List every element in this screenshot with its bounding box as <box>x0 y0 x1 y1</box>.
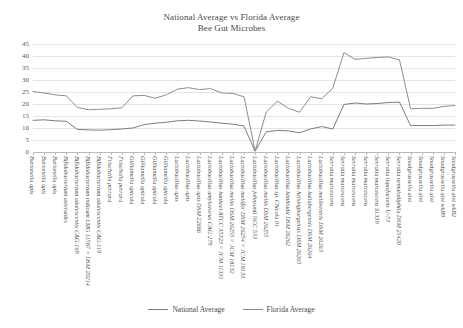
x-axis-tick <box>355 152 356 155</box>
x-axis-tick <box>277 152 278 155</box>
chart-legend: National AverageFlorida Average <box>0 305 463 314</box>
x-axis-tick <box>166 152 167 155</box>
x-axis-category-label: Snodgrassella alvi <box>429 156 435 202</box>
y-axis-tick-label: 10 <box>22 125 29 132</box>
x-axis-tick <box>399 152 400 155</box>
x-axis-category-label: Snodgrassella alvi wkB9 <box>440 156 446 217</box>
x-axis-category-label: Lactobacillus apis DSM 22686 <box>196 156 202 233</box>
x-axis-category-label: Bifidobacterium asteroides <box>63 156 69 223</box>
x-axis-tick <box>377 152 378 155</box>
x-axis-tick <box>455 152 456 155</box>
x-axis-tick <box>288 152 289 155</box>
x-axis-tick <box>177 152 178 155</box>
x-axis-tick <box>188 152 189 155</box>
x-axis-tick <box>144 152 145 155</box>
chart-title: National Average vs Florida Average <box>0 12 463 23</box>
x-axis-category-label: Bifidobacterium adolescentis CAG:119 <box>96 156 102 253</box>
x-axis-labels: Bartonella apisBartonella apisBartonella… <box>33 156 455 286</box>
x-axis-category-label: Lactobacillus kimbladii DSM 26262 <box>285 156 291 246</box>
x-axis-category-label: Gilliamella apicola <box>140 156 146 204</box>
x-axis-category-label: Gilliamella apicola <box>162 156 168 204</box>
y-axis-tick-label: 20 <box>22 101 29 108</box>
x-axis-tick <box>233 152 234 155</box>
x-axis-tick <box>55 152 56 155</box>
x-axis-tick <box>422 152 423 155</box>
x-axis-tick <box>333 152 334 155</box>
legend-item[interactable]: National Average <box>148 305 224 314</box>
chart-container: National Average vs Florida Average Bee … <box>0 0 463 328</box>
y-axis-labels: 051015202530354045 <box>0 44 31 152</box>
x-axis-tick <box>244 152 245 155</box>
x-axis-tick <box>200 152 201 155</box>
chart-title-block: National Average vs Florida Average Bee … <box>0 12 463 34</box>
x-axis-tick <box>122 152 123 155</box>
x-axis-tick <box>33 152 34 155</box>
x-axis-tick <box>89 152 90 155</box>
y-axis-tick-label: 0 <box>26 149 30 156</box>
plot-area <box>33 44 455 152</box>
x-axis-category-label: Gilliamella apicola <box>129 156 135 204</box>
x-axis-category-label: Snodgrassella alvi wkB2 <box>451 156 457 217</box>
x-axis-category-label: Lactobacillus helsingborgensis DSM 26265 <box>296 156 302 264</box>
y-axis-tick-label: 5 <box>26 137 30 144</box>
x-axis-tick <box>433 152 434 155</box>
x-axis-category-label: Serratia liquefaciens U-73 <box>385 156 391 222</box>
x-axis-category-label: Serratia marcescens S1339 <box>373 156 379 223</box>
y-axis-tick-label: 40 <box>22 53 29 60</box>
x-axis-category-label: Lactobacillus apis <box>174 156 180 202</box>
series-line <box>33 53 455 151</box>
x-axis-tick <box>100 152 101 155</box>
x-axis-category-label: Lactobacillus apis <box>185 156 191 202</box>
x-axis-tick <box>77 152 78 155</box>
x-axis-category-label: Lactobacillus amylovorus CAG:279 <box>207 156 213 245</box>
x-axis-tick <box>133 152 134 155</box>
y-axis-tick-label: 45 <box>22 41 29 48</box>
legend-label: Florida Average <box>267 305 315 314</box>
x-axis-category-label: Frischella perrara <box>118 156 124 202</box>
x-axis-category-label: Bifidobacterium indicum LMG 11587 = DSM … <box>85 156 91 286</box>
x-axis-category-label: Lactobacillus johnsonii NCC 533 <box>251 156 257 239</box>
x-axis-tick <box>411 152 412 155</box>
x-axis-tick <box>222 152 223 155</box>
legend-line-swatch <box>148 309 168 310</box>
legend-item[interactable]: Florida Average <box>243 305 315 314</box>
x-axis-tick <box>155 152 156 155</box>
x-axis-ticks <box>33 152 455 155</box>
x-axis-tick <box>266 152 267 155</box>
legend-line-swatch <box>243 309 263 310</box>
x-axis-category-label: Lactobacillus mellis DSM 26255 <box>262 156 268 237</box>
x-axis-category-label: Serratia marcescens <box>329 156 335 206</box>
x-axis-category-label: Gilliamella apicola <box>151 156 157 204</box>
x-axis-tick <box>311 152 312 155</box>
y-axis-tick-label: 25 <box>22 89 29 96</box>
y-axis-tick-label: 30 <box>22 77 29 84</box>
x-axis-tick <box>255 152 256 155</box>
x-axis-category-label: Lactobacillus kunkeei ATCC 35323 = JCM 1… <box>218 156 224 280</box>
series-lines <box>33 44 455 152</box>
x-axis-category-label: Bartonella apis <box>51 156 57 194</box>
x-axis-category-label: Lactobacillus sp. Chicola 01 <box>274 156 280 227</box>
x-axis-tick <box>66 152 67 155</box>
x-axis-tick <box>300 152 301 155</box>
x-axis-tick <box>44 152 45 155</box>
x-axis-category-label: Frischella perrara <box>107 156 113 202</box>
x-axis-category-label: Bartonella apis <box>29 156 35 194</box>
x-axis-category-label: Lactobacillus melliventris DSM 26263 <box>318 156 324 252</box>
x-axis-tick <box>322 152 323 155</box>
x-axis-category-label: Serratia marcescens <box>340 156 346 206</box>
x-axis-category-label: Serratia marcescens <box>362 156 368 206</box>
y-axis-tick-label: 35 <box>22 65 29 72</box>
x-axis-tick <box>111 152 112 155</box>
x-axis-tick <box>444 152 445 155</box>
x-axis-category-label: Serratia marcescens <box>351 156 357 206</box>
x-axis-category-label: Lactobacillus mellifer DSM 26254 = JCM 1… <box>240 156 246 278</box>
legend-label: National Average <box>172 305 224 314</box>
x-axis-category-label: Snodgrassella alvi <box>407 156 413 202</box>
x-axis-tick <box>211 152 212 155</box>
x-axis-category-label: Snodgrassella alvi <box>418 156 424 202</box>
x-axis-category-label: Lactobacillus kullabergensis DSM 26264 <box>307 156 313 258</box>
x-axis-tick <box>388 152 389 155</box>
chart-subtitle: Bee Gut Microbes <box>0 23 463 34</box>
x-axis-category-label: Serratia nematodiphila DSM 21420 <box>396 156 402 245</box>
x-axis-tick <box>366 152 367 155</box>
